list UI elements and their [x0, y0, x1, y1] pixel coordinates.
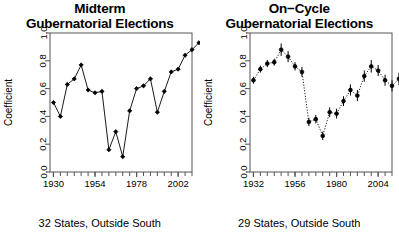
svg-text:2002: 2002: [168, 178, 189, 189]
svg-text:1978: 1978: [126, 178, 147, 189]
svg-text:1954: 1954: [84, 178, 105, 189]
panel-midterm: Midterm Gubernatorial Elections 0.00.20.…: [0, 0, 200, 243]
svg-text:0.4: 0.4: [38, 110, 49, 123]
svg-text:Coefficient: Coefficient: [203, 79, 214, 126]
panel-oncycle: On−Cycle Gubernatorial Elections 0.00.20…: [200, 0, 399, 243]
panel-caption-oncycle: 29 States, Outside South: [200, 217, 399, 229]
panel-title-oncycle: On−Cycle Gubernatorial Elections: [200, 2, 399, 31]
panel-title-line1: On−Cycle: [269, 1, 330, 16]
panel-caption-midterm: 32 States, Outside South: [0, 217, 200, 229]
panel-title-line2: Gubernatorial Elections: [0, 17, 200, 32]
svg-text:1930: 1930: [43, 178, 64, 189]
svg-text:1956: 1956: [284, 178, 305, 189]
svg-text:1980: 1980: [326, 178, 347, 189]
svg-text:0.0: 0.0: [38, 165, 49, 178]
svg-text:0.8: 0.8: [38, 54, 49, 67]
svg-text:0.2: 0.2: [237, 138, 248, 151]
panel-title-line2: Gubernatorial Elections: [200, 17, 399, 32]
svg-text:0.2: 0.2: [38, 138, 49, 151]
svg-text:1932: 1932: [242, 178, 263, 189]
svg-text:0.6: 0.6: [237, 82, 248, 95]
svg-text:0.8: 0.8: [237, 54, 248, 67]
panel-title-line1: Midterm: [74, 1, 125, 16]
panel-title-midterm: Midterm Gubernatorial Elections: [0, 2, 200, 31]
svg-text:Coefficient: Coefficient: [3, 79, 14, 126]
figure-container: Midterm Gubernatorial Elections 0.00.20.…: [0, 0, 399, 243]
svg-text:2004: 2004: [367, 178, 388, 189]
svg-text:0.4: 0.4: [237, 110, 248, 123]
svg-text:0.0: 0.0: [237, 165, 248, 178]
svg-text:0.6: 0.6: [38, 82, 49, 95]
